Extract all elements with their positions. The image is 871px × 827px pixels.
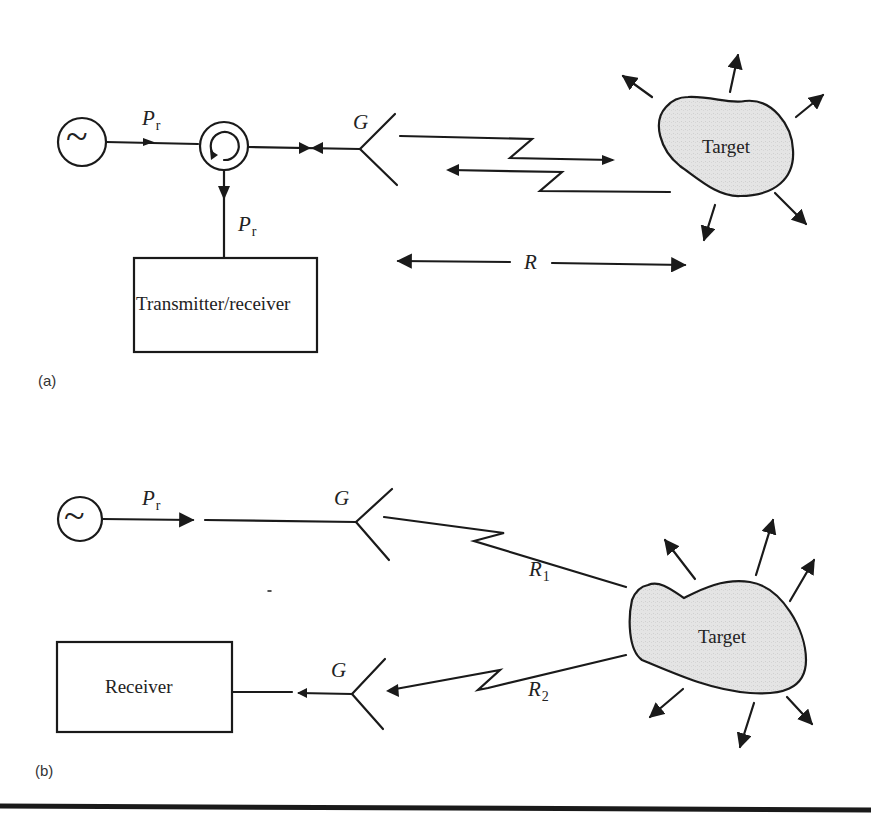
panel-b (57, 489, 814, 747)
range-label: R (524, 250, 537, 275)
outgoing-wave (400, 136, 612, 160)
transmitter-receiver-label: Transmitter/receiver (136, 293, 290, 315)
receiver-label: Receiver (105, 676, 173, 698)
incident-wave-r1 (384, 517, 626, 587)
rx-antenna-b-icon (352, 659, 385, 729)
scattered-wave-r2 (390, 655, 626, 690)
panel-a-label: (a) (38, 372, 56, 389)
sine-wave-a-icon: ~ (66, 117, 88, 157)
radar-diagram (0, 0, 871, 827)
power-label-a1: Pr (142, 106, 161, 131)
bottom-rule (0, 806, 871, 810)
power-label-a2: Pr (238, 212, 257, 237)
panel-b-label: (b) (35, 762, 53, 779)
return-wave (450, 170, 670, 192)
sine-wave-b-icon: ~ (64, 496, 85, 534)
range-1-label: R1 (529, 557, 550, 582)
target-a-label: Target (702, 136, 750, 158)
range-2-label: R2 (528, 677, 549, 702)
feed-line-b (205, 520, 356, 522)
range-arrow-left (398, 261, 510, 262)
antenna-gain-label-a: G (353, 110, 368, 135)
flow-arrow-a-icon (143, 138, 154, 146)
tx-antenna-gain-label-b: G (334, 486, 349, 511)
target-b-label: Target (698, 626, 746, 648)
rx-antenna-gain-label-b: G (331, 658, 346, 683)
connector-icon (299, 142, 323, 154)
range-arrow-right (552, 263, 685, 265)
circulator-icon (200, 122, 248, 170)
power-label-b: Pr (142, 486, 161, 511)
tx-antenna-b-icon (356, 489, 392, 560)
